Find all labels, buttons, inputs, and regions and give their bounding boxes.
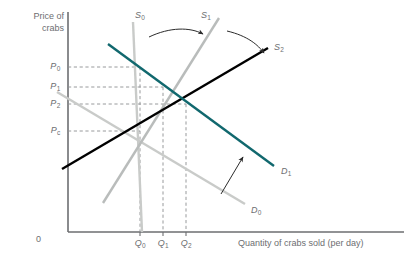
x-axis-title: Quantity of crabs sold (per day) [238,238,364,249]
shift-arrow-s1-to-s2 [227,31,264,53]
curve-label-d1: D1 [281,166,291,177]
curve-d0 [57,92,245,204]
y-tick-label-p0: P0 [34,61,60,72]
curve-label-d0: D0 [251,205,261,216]
supply-demand-figure: Price of crabs Quantity of crabs sold (p… [0,0,413,261]
curve-label-s1: S1 [201,10,211,21]
origin-label: 0 [36,234,41,245]
x-tick-label-q2: Q2 [175,238,197,249]
shift-arrow-d0-to-d1 [221,157,243,194]
y-axis-title: Price of crabs [8,10,64,34]
y-axis-title-line2: crabs [42,23,64,33]
y-tick-label-p1: P1 [34,81,60,92]
x-tick-label-q0: Q0 [129,238,151,249]
curve-label-s2: S2 [274,42,284,53]
x-tick-label-q1: Q1 [152,238,174,249]
curve-label-s0: S0 [135,10,145,21]
y-axis-title-line1: Price of [33,11,64,21]
y-tick-label-p2: P2 [34,98,60,109]
chart-canvas [0,0,413,261]
y-tick-label-pc: Pc [34,125,60,136]
shift-arrow-s0-to-s1 [149,29,203,37]
curve-s2 [62,48,268,169]
guide-lines [68,67,186,232]
